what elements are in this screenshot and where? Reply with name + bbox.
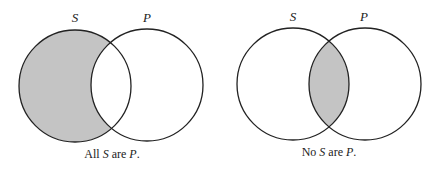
- label-s: S: [290, 9, 297, 24]
- label-s: S: [72, 10, 79, 25]
- caption: No S are P.: [302, 145, 357, 159]
- venn-diagrams: S P All S are P. S P No S are P.: [0, 0, 442, 169]
- diagram-all-s-are-p: S P All S are P.: [19, 10, 203, 161]
- label-p: P: [142, 10, 151, 25]
- diagram-no-s-are-p: S P No S are P.: [237, 9, 421, 159]
- label-p: P: [359, 9, 368, 24]
- caption: All S are P.: [84, 147, 139, 161]
